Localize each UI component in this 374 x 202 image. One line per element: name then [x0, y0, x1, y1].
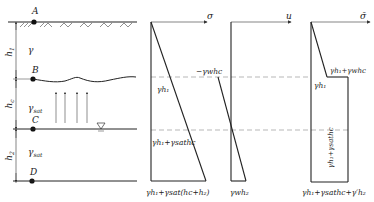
total-stress-line — [151, 22, 206, 181]
total-stress-panel: σ γh₁ γh₁+γsathc γh₁+γsat(hc+h₂) — [146, 11, 214, 197]
effective-sigma-axis-label: σ̄ — [360, 11, 367, 21]
h1-label: h1 — [4, 47, 15, 57]
point-a-marker — [31, 19, 36, 24]
h2-label: h2 — [4, 151, 15, 161]
pore-pressure-panel: u −γwhc γwh₂ — [196, 11, 292, 197]
gamma-sat-label-capillary: γsat — [28, 103, 43, 114]
effective-stress-panel: σ̄ γh₁+γwhc γh₁ γh₁+γsathc γh₁+γsathc+γ′… — [302, 11, 370, 197]
point-a-label: A — [31, 6, 39, 16]
gamma-sat-label-lower: γsat — [28, 147, 43, 158]
total-stress-at-b: γh₁ — [157, 85, 169, 94]
effective-stress-at-b-top: γh₁+γwhc — [330, 67, 366, 75]
pore-pressure-at-b: −γwhc — [196, 67, 223, 76]
effective-stress-line — [311, 22, 327, 77]
pore-pressure-at-d: γwh₂ — [230, 188, 249, 197]
hc-label: hc — [4, 99, 15, 109]
soil-profile: h1 hc h2 A γ B γsat C γsat D — [4, 6, 137, 184]
ground-hatch — [20, 23, 132, 27]
water-table-icon — [97, 123, 105, 129]
pore-pressure-line — [218, 77, 246, 181]
point-b-label: B — [31, 65, 39, 75]
capillary-rise-line — [33, 77, 136, 82]
sigma-axis-label: σ — [207, 11, 214, 21]
capillary-arrows — [56, 93, 87, 123]
u-axis-label: u — [286, 11, 292, 21]
effective-stress-side: γh₁+γsathc — [327, 127, 335, 168]
point-c-label: C — [32, 115, 39, 125]
point-d-label: D — [29, 167, 37, 177]
total-stress-at-d: γh₁+γsat(hc+h₂) — [146, 188, 209, 197]
effective-stress-at-d: γh₁+γsathc+γ′h₂ — [302, 188, 366, 197]
total-stress-at-c: γh₁+γsathc — [152, 138, 196, 147]
soil-stress-diagram: h1 hc h2 A γ B γsat C γsat D — [0, 0, 374, 202]
gamma-label: γ — [28, 45, 34, 55]
effective-stress-at-b-left: γh₁ — [314, 81, 326, 90]
